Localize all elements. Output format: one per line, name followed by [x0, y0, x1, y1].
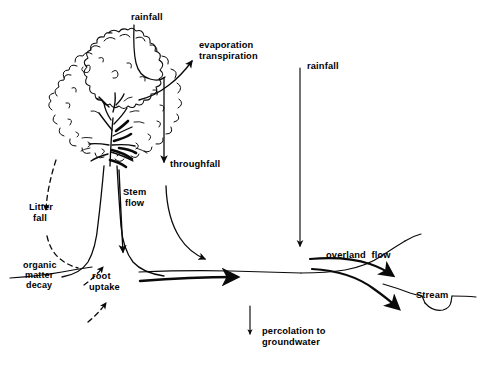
- label-stream: Stream: [416, 290, 448, 300]
- label-stem-flow-line2: flow: [125, 198, 144, 208]
- hydrological-cycle-diagram: rainfall evaporation transpiration rainf…: [0, 0, 478, 370]
- label-rainfall-open: rainfall: [307, 61, 339, 71]
- label-litter-fall-line1: Litter: [29, 202, 53, 212]
- subsurface-flow: [140, 277, 236, 281]
- tree-trunk: [62, 166, 164, 277]
- label-percolation-line1: percolation to: [262, 326, 326, 336]
- label-transpiration: transpiration: [199, 51, 258, 61]
- label-root-uptake-line2: uptake: [89, 282, 120, 292]
- label-evaporation: evaporation: [199, 40, 253, 50]
- label-organic-matter-line2: matter: [25, 270, 53, 280]
- label-organic-matter-line1: organic: [23, 260, 57, 270]
- overland-flow-flow: [310, 258, 398, 308]
- label-litter-fall-line2: fall: [33, 213, 47, 223]
- label-root-uptake-line1: root: [92, 271, 111, 281]
- label-organic-matter-line3: decay: [26, 280, 52, 290]
- rainfall-canopy-flow: [134, 25, 165, 80]
- label-rainfall-canopy: rainfall: [131, 12, 163, 22]
- label-overland-flow: overland flow: [326, 250, 391, 260]
- label-percolation-line2: groundwater: [262, 337, 320, 347]
- litter-fall-flow: [46, 160, 78, 268]
- label-stem-flow-line1: Stem: [123, 187, 146, 197]
- label-throughfall: throughfall: [170, 159, 220, 169]
- evapotranspiration-flow: [139, 61, 192, 100]
